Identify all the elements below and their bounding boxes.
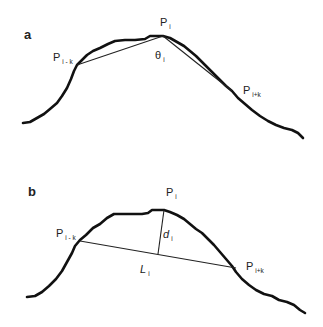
curvature-diagram: a Pi Pi - k Pi+k θi b Pi Pi - k Pi+k bbox=[0, 0, 323, 327]
panel-b-label: b bbox=[28, 184, 36, 199]
panel-b-point-pi-minus-k: Pi - k bbox=[56, 227, 77, 241]
panel-b-chord-length-l: Li bbox=[140, 263, 150, 277]
panel-a-chord-right bbox=[163, 36, 232, 91]
panel-b-distance-d: di bbox=[163, 228, 173, 242]
panel-a-angle-theta: θi bbox=[155, 49, 165, 63]
panel-b-curve bbox=[27, 210, 305, 313]
panel-a-point-pi-plus-k: Pi+k bbox=[243, 84, 262, 98]
panel-b: b Pi Pi - k Pi+k di Li bbox=[27, 184, 305, 313]
panel-a: a Pi Pi - k Pi+k θi bbox=[23, 16, 303, 138]
panel-a-label: a bbox=[24, 27, 32, 42]
panel-b-point-pi: Pi bbox=[166, 186, 177, 200]
panel-b-point-pi-plus-k: Pi+k bbox=[246, 260, 265, 274]
panel-a-point-pi: Pi bbox=[160, 16, 171, 30]
panel-a-curve bbox=[23, 36, 303, 138]
panel-a-point-pi-minus-k: Pi - k bbox=[53, 51, 74, 65]
